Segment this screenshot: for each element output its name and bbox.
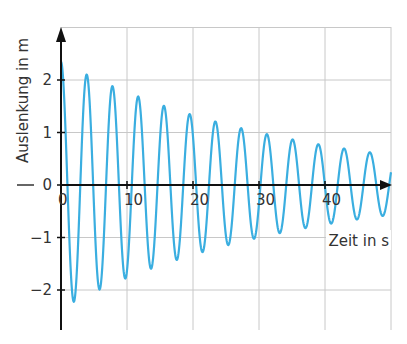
y-axis-title: Auslenkung in m [14, 38, 32, 163]
damped-oscillation-chart: 010203040210−1−2 Zeit in s Auslenkung in… [0, 0, 407, 344]
x-tick-label: 30 [256, 191, 275, 209]
y-tick-label: 0 [42, 176, 52, 194]
y-tick-label: 2 [42, 71, 52, 89]
y-tick-label: 1 [42, 124, 52, 142]
axes [17, 27, 392, 330]
y-axis-arrow-icon [56, 27, 66, 42]
x-tick-label: 0 [58, 191, 68, 209]
y-tick-label: −2 [30, 281, 52, 299]
oscillation-curve [61, 62, 391, 302]
x-tick-label: 10 [124, 191, 143, 209]
curve-layer [61, 62, 391, 302]
x-tick-label: 40 [322, 191, 341, 209]
x-tick-label: 20 [190, 191, 209, 209]
grid-lines [61, 27, 391, 330]
x-axis-title: Zeit in s [328, 232, 389, 250]
y-tick-label: −1 [30, 229, 52, 247]
